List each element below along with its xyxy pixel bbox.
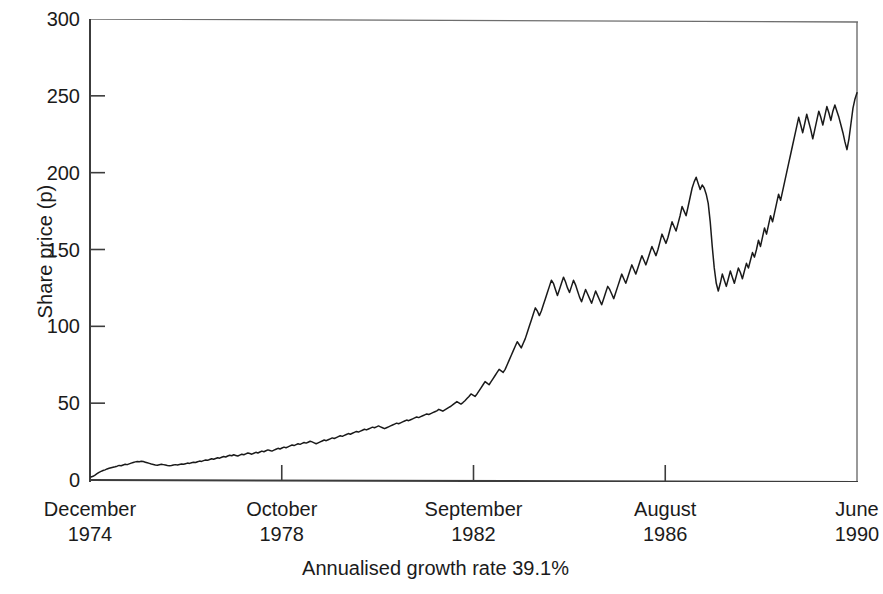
y-tick-label-50: 50 (16, 393, 80, 413)
x-tick-year: 1974 (0, 522, 185, 547)
chart-caption: Annualised growth rate 39.1% (0, 557, 871, 580)
y-tick-label-150: 150 (16, 240, 80, 260)
series-line-chart (89, 19, 858, 482)
y-tick-label-0: 0 (16, 470, 80, 490)
x-axis-tick-marks (282, 465, 666, 481)
y-tick-label-300: 300 (16, 9, 80, 29)
x-tick-year: 1982 (379, 522, 569, 547)
y-tick-label-100: 100 (16, 316, 80, 336)
x-tick-label-1974: December1974 (0, 497, 185, 547)
x-tick-year: 1986 (570, 522, 760, 547)
x-tick-month: October (187, 497, 377, 522)
y-tick-label-200: 200 (16, 163, 80, 183)
x-axis-tick-labels: December1974October1978September1982Augu… (0, 497, 871, 557)
x-tick-month: September (379, 497, 569, 522)
y-tick-label-250: 250 (16, 86, 80, 106)
x-tick-label-1982: September1982 (379, 497, 569, 547)
x-tick-month: December (0, 497, 185, 522)
x-tick-label-1986: August1986 (570, 497, 760, 547)
x-tick-month: August (570, 497, 760, 522)
x-tick-label-1990: June1990 (762, 497, 883, 547)
y-axis-tick-marks (90, 96, 105, 403)
plot-area (89, 19, 858, 482)
plot-top-border (89, 19, 858, 22)
x-tick-year: 1978 (187, 522, 377, 547)
x-tick-month: June (762, 497, 883, 522)
x-tick-label-1978: October1978 (187, 497, 377, 547)
x-tick-year: 1990 (762, 522, 883, 547)
share-price-line (91, 93, 857, 477)
